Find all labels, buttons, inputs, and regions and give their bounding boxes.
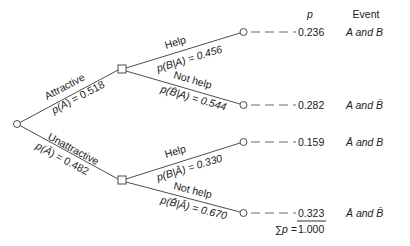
outcome-event-3: Ā and B [345, 136, 383, 148]
outcome-p-2: 0.282 [298, 99, 324, 111]
outcome-p-3: 0.159 [298, 136, 324, 148]
branch-label-help-abar: Help [163, 142, 187, 160]
probability-tree: Attractive p(A) = 0.518 Unattractive p(Ā… [0, 0, 410, 246]
terminal-node-1 [240, 29, 247, 36]
sum-value: 1.000 [298, 223, 324, 235]
outcome-event-1: A and B [345, 26, 383, 38]
branch-label-help-a: Help [163, 33, 187, 51]
column-header-p: p [306, 8, 313, 20]
prob-label-bbar-given-a: p(B̄|A) = 0.544 [158, 82, 228, 113]
prob-label-bbar-given-abar: p(B̄|Ā) = 0.670 [159, 193, 229, 221]
terminal-node-4 [240, 210, 247, 217]
outcome-p-1: 0.236 [298, 26, 324, 38]
terminal-node-2 [240, 102, 247, 109]
column-header-event: Event [353, 8, 380, 20]
decision-node-attractive [118, 65, 126, 73]
terminal-node-3 [240, 139, 247, 146]
decision-node-unattractive [118, 176, 126, 184]
outcome-event-4: Ā and B̄ [345, 207, 383, 219]
sum-label: ∑p = [275, 223, 297, 236]
outcome-p-4: 0.323 [298, 207, 324, 219]
outcome-event-2: A and B̄ [345, 99, 383, 111]
root-chance-node [14, 121, 21, 128]
